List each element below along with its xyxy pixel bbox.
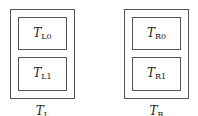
label-tl: TL xyxy=(36,104,49,116)
label-tr0: TR0 xyxy=(147,27,166,41)
label-tr1: TR1 xyxy=(147,67,166,81)
right-inner-box-1: TR1 xyxy=(132,57,181,91)
label-tr: TR xyxy=(149,104,163,116)
right-group-caption: TR xyxy=(124,100,189,116)
label-tl0: TL0 xyxy=(33,27,51,41)
left-inner-box-0: TL0 xyxy=(18,17,67,50)
label-tl1: TL1 xyxy=(33,67,51,81)
right-inner-box-0: TR0 xyxy=(132,17,181,50)
left-inner-box-1: TL1 xyxy=(18,57,67,91)
left-group-caption: TL xyxy=(10,100,75,116)
